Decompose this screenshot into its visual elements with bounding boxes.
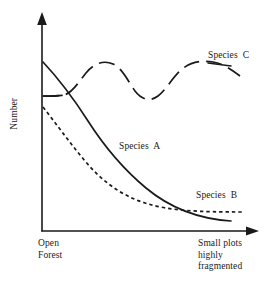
series-c-axis-stub bbox=[43, 95, 62, 96]
series-label-species-a: Species A bbox=[119, 141, 160, 153]
series-label-species-b: Species B bbox=[196, 190, 237, 202]
y-axis-title: Number bbox=[9, 88, 21, 140]
series-label-species-c: Species C bbox=[208, 50, 249, 62]
y-axis bbox=[37, 12, 47, 231]
x-axis-label-right: Small plots highly fragmented bbox=[198, 238, 242, 273]
x-axis bbox=[42, 226, 259, 235]
y-axis-arrowhead bbox=[37, 12, 47, 25]
x-axis-label-left: Open Forest bbox=[38, 238, 62, 261]
series-line-species-c bbox=[43, 61, 240, 99]
x-axis-arrowhead bbox=[246, 226, 259, 235]
species-fragmentation-chart: Number Open Forest Small plots highly fr… bbox=[0, 0, 274, 285]
